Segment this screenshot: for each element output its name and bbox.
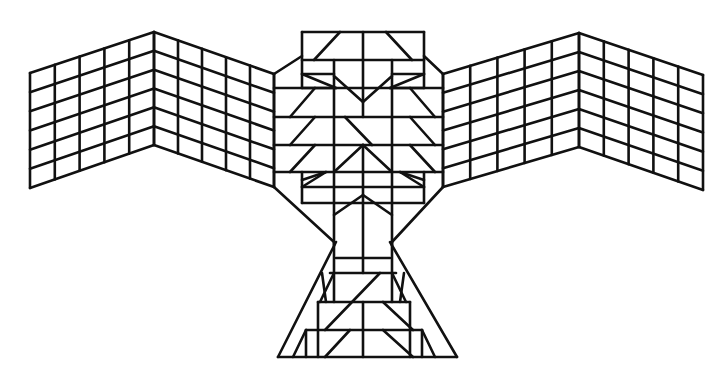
left-wing-outer-panel-horizontal bbox=[30, 126, 154, 169]
left-wing-inner-panel-horizontal bbox=[154, 145, 274, 187]
right-wing-outer-panel-horizontal bbox=[579, 147, 703, 190]
right-wing-outer-panel-horizontal bbox=[579, 128, 703, 171]
body-tail-stroke bbox=[293, 330, 306, 357]
body-chevrons-stroke bbox=[290, 88, 315, 117]
left-wing-outer-panel-horizontal bbox=[30, 32, 154, 73]
left-wing bbox=[30, 32, 274, 188]
left-wing-outer-panel-horizontal bbox=[30, 51, 154, 92]
body-chevrons-stroke bbox=[363, 145, 392, 172]
bird-drawing bbox=[0, 0, 717, 376]
body-tail-stroke bbox=[383, 330, 413, 357]
body-chevrons-stroke bbox=[345, 117, 372, 145]
body-chevrons-stroke bbox=[334, 145, 363, 172]
left-wing-outer-panel-horizontal bbox=[30, 107, 154, 149]
body-head-stroke bbox=[390, 74, 424, 88]
left-wing-outer-panel-horizontal bbox=[30, 145, 154, 188]
right-wing-inner-panel-horizontal bbox=[443, 128, 579, 168]
right-wing-outer-panel-horizontal bbox=[579, 52, 703, 94]
right-wing bbox=[443, 33, 703, 190]
right-wing-outer-panel-horizontal bbox=[579, 33, 703, 75]
body-neck-stroke bbox=[363, 195, 392, 215]
right-wing-inner-panel-horizontal bbox=[443, 33, 579, 74]
right-wing-inner-panel-horizontal bbox=[443, 147, 579, 187]
right-wing-inner-panel-horizontal bbox=[443, 52, 579, 93]
right-wing-outer-panel-horizontal bbox=[579, 109, 703, 152]
body-head-stroke bbox=[424, 56, 443, 74]
body-chevrons-stroke bbox=[290, 145, 315, 172]
body-neck-stroke bbox=[334, 195, 363, 215]
body-neck-stroke bbox=[274, 187, 334, 242]
body-head-stroke bbox=[274, 56, 302, 74]
body-chevrons-stroke bbox=[410, 88, 435, 117]
body-neck-stroke bbox=[392, 187, 443, 242]
left-wing-inner-panel-horizontal bbox=[154, 70, 274, 112]
body-chevrons-stroke bbox=[290, 117, 315, 145]
left-wing-outer-panel-horizontal bbox=[30, 70, 154, 112]
body-head-stroke bbox=[314, 32, 340, 60]
body-head-stroke bbox=[386, 32, 412, 60]
body-chevrons-stroke bbox=[410, 145, 435, 172]
body-head-stroke bbox=[302, 74, 336, 88]
body-tail-stroke bbox=[383, 302, 413, 330]
right-wing-inner-panel-horizontal bbox=[443, 109, 579, 149]
right-wing-inner-panel-horizontal bbox=[443, 90, 579, 131]
left-wing-inner-panel-horizontal bbox=[154, 126, 274, 168]
body-chevrons-stroke bbox=[410, 117, 435, 145]
right-wing-outer-panel-horizontal bbox=[579, 90, 703, 133]
bird-body bbox=[274, 32, 457, 357]
left-wing-inner-panel-horizontal bbox=[154, 89, 274, 131]
left-wing-inner-panel-horizontal bbox=[154, 51, 274, 93]
body-tail-stroke bbox=[325, 330, 350, 357]
left-wing-outer-panel-horizontal bbox=[30, 89, 154, 131]
right-wing-outer-panel-horizontal bbox=[579, 71, 703, 113]
right-wing-inner-panel-horizontal bbox=[443, 71, 579, 112]
figure-canvas: Geometric bird (thunderbird) line drawin… bbox=[0, 0, 717, 376]
left-wing-inner-panel-horizontal bbox=[154, 32, 274, 74]
left-wing-inner-panel-horizontal bbox=[154, 107, 274, 149]
body-tail-stroke bbox=[422, 330, 435, 357]
